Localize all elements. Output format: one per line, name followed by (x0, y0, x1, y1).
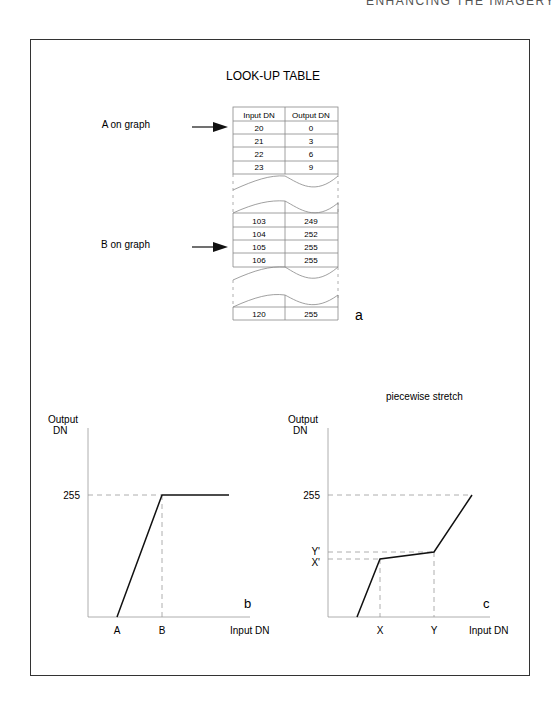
header-input-dn: Input DN (243, 111, 275, 120)
y-tick-x-prime: X' (311, 557, 320, 568)
cell: 106 (252, 256, 266, 265)
panel-label-c: c (483, 596, 490, 611)
y-axis-label: Output (48, 414, 78, 425)
x-tick-b: B (159, 625, 166, 636)
cell: 104 (252, 230, 266, 239)
cell: 21 (255, 137, 264, 146)
arrow-icon (192, 242, 228, 252)
cell: 20 (255, 124, 264, 133)
panel-label-b: b (244, 596, 251, 611)
graph-title: piecewise stretch (386, 391, 463, 402)
table-title: LOOK-UP TABLE (226, 69, 320, 83)
figure-canvas: LOOK-UP TABLE Input DN Output DN 20 0 21… (0, 0, 557, 711)
x-tick-y: Y (431, 625, 438, 636)
y-axis-label: DN (53, 425, 67, 436)
cell: 120 (252, 310, 266, 319)
pointer-b-label: B on graph (101, 239, 150, 250)
x-tick-x: X (377, 625, 384, 636)
cell: 255 (304, 310, 318, 319)
x-axis-label: Input DN (230, 625, 269, 636)
y-tick-y-prime: Y' (311, 546, 320, 557)
cell: 255 (304, 243, 318, 252)
graph-c: piecewise stretch Output DN 255 Y' X' X … (288, 391, 508, 636)
y-axis-label: Output (288, 414, 318, 425)
y-axis-label: DN (293, 425, 307, 436)
cell: 0 (309, 124, 314, 133)
cell: 9 (309, 163, 314, 172)
cell: 249 (304, 217, 318, 226)
cell: 22 (255, 150, 264, 159)
table-group-2 (233, 201, 338, 280)
cell: 255 (304, 256, 318, 265)
cell: 252 (304, 230, 318, 239)
pointer-a-label: A on graph (102, 119, 150, 130)
graph-b: Output DN 255 A B Input DN b (48, 414, 269, 636)
cell: 3 (309, 137, 314, 146)
x-tick-a: A (114, 625, 121, 636)
header-output-dn: Output DN (292, 111, 330, 120)
cell: 6 (309, 150, 314, 159)
y-tick-255: 255 (303, 490, 320, 501)
x-axis-label: Input DN (469, 625, 508, 636)
arrow-icon (192, 122, 228, 132)
cell: 103 (252, 217, 266, 226)
panel-label-a: a (355, 307, 363, 323)
table-group-3 (233, 295, 338, 321)
cell: 23 (255, 163, 264, 172)
cell: 105 (252, 243, 266, 252)
y-tick-255: 255 (63, 490, 80, 501)
